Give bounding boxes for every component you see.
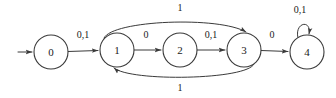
fsm-diagram: 0 1 2 3 4 0,1 0 0,1 0 1 1 0,1 (0, 0, 336, 98)
transition-3-to-4 (261, 51, 288, 52)
state-label-3: 3 (241, 44, 247, 56)
transition-0-to-1 (68, 51, 98, 52)
state-label-1: 1 (114, 44, 120, 56)
transition-label-self-loop-4: 0,1 (294, 4, 307, 15)
fsm-canvas: 0 1 2 3 4 0,1 0 0,1 0 1 1 0,1 (0, 0, 336, 98)
transition-label-3-4: 0 (270, 29, 275, 40)
state-label-2: 2 (177, 44, 183, 56)
state-label-4: 4 (304, 46, 310, 58)
transition-label-3-1-lower: 1 (178, 82, 183, 93)
state-label-0: 0 (48, 46, 54, 58)
transition-label-1-2: 0 (144, 29, 149, 40)
transition-label-0-1: 0,1 (77, 29, 90, 40)
transition-label-1-3-upper: 1 (178, 2, 183, 13)
transition-label-2-3: 0,1 (205, 29, 218, 40)
